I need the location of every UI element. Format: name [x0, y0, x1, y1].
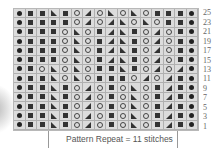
knit-square-icon — [97, 39, 102, 44]
decrease-right-triangle-icon — [51, 94, 57, 100]
purl-dot-icon — [189, 76, 194, 81]
chart-cell — [175, 111, 187, 120]
yarn-over-circle-icon — [74, 85, 80, 91]
chart-cell — [83, 83, 95, 92]
row-number: 25 — [203, 8, 211, 17]
chart-cell — [72, 83, 84, 92]
chart-cell — [37, 46, 49, 55]
chart-cell — [14, 56, 26, 65]
yarn-over-circle-icon — [166, 57, 172, 63]
chart-cell — [95, 18, 107, 27]
decrease-right-triangle-icon — [120, 66, 126, 72]
yarn-over-circle-icon — [85, 47, 91, 53]
purl-dot-icon — [189, 66, 194, 71]
chart-cell — [37, 102, 49, 111]
chart-cell — [164, 56, 176, 65]
chart-cell — [118, 37, 130, 46]
chart-cell — [129, 83, 141, 92]
chart-cell — [49, 74, 61, 83]
chart-cell — [175, 46, 187, 55]
chart-cell — [60, 102, 72, 111]
chart-cell — [129, 46, 141, 55]
decrease-left-triangle-icon — [143, 75, 149, 81]
decrease-left-triangle-icon — [166, 103, 172, 109]
yarn-over-circle-icon — [97, 10, 103, 16]
chart-cell — [141, 18, 153, 27]
knit-square-icon — [166, 11, 171, 16]
chart-cell — [106, 74, 118, 83]
yarn-over-circle-icon — [120, 113, 126, 119]
decrease-right-triangle-icon — [74, 57, 80, 63]
chart-cell — [106, 102, 118, 111]
chart-cell — [152, 56, 164, 65]
chart-cell — [60, 83, 72, 92]
knit-square-icon — [178, 20, 183, 25]
chart-cell — [14, 83, 26, 92]
yarn-over-circle-icon — [62, 47, 68, 53]
chart-cell — [106, 65, 118, 74]
knit-square-icon — [63, 94, 68, 99]
decrease-right-triangle-icon — [51, 10, 57, 16]
decrease-left-triangle-icon — [154, 57, 160, 63]
chart-cell — [14, 18, 26, 27]
purl-dot-icon — [17, 39, 22, 44]
chart-cell — [118, 74, 130, 83]
decrease-right-triangle-icon — [131, 113, 137, 119]
purl-dot-icon — [17, 76, 22, 81]
yarn-over-circle-icon — [143, 66, 149, 72]
knit-square-icon — [97, 29, 102, 34]
chart-cell — [26, 74, 38, 83]
yarn-over-circle-icon — [85, 29, 91, 35]
purl-dot-icon — [17, 29, 22, 34]
knit-square-icon — [178, 48, 183, 53]
chart-cell — [49, 65, 61, 74]
chart-cell — [60, 28, 72, 37]
chart-cell — [95, 56, 107, 65]
chart-cell — [26, 18, 38, 27]
chart-cell — [164, 28, 176, 37]
yarn-over-circle-icon — [74, 113, 80, 119]
chart-cell — [37, 121, 49, 130]
chart-cell — [60, 18, 72, 27]
knit-square-icon — [63, 113, 68, 118]
knit-square-icon — [40, 76, 45, 81]
knit-square-icon — [178, 29, 183, 34]
repeat-bracket-left — [48, 131, 49, 148]
purl-dot-icon — [17, 11, 22, 16]
chart-cell — [106, 46, 118, 55]
knit-square-icon — [109, 122, 114, 127]
chart-cell — [187, 46, 199, 55]
purl-dot-icon — [17, 20, 22, 25]
decrease-right-triangle-icon — [74, 47, 80, 53]
chart-cell — [106, 83, 118, 92]
chart-cell — [26, 37, 38, 46]
yarn-over-circle-icon — [143, 122, 149, 128]
knit-square-icon — [51, 57, 56, 62]
chart-cell — [141, 111, 153, 120]
decrease-right-triangle-icon — [143, 19, 149, 25]
knit-square-icon — [40, 104, 45, 109]
chart-cell — [49, 28, 61, 37]
knit-square-icon — [51, 20, 56, 25]
decrease-right-triangle-icon — [51, 75, 57, 81]
yarn-over-circle-icon — [120, 85, 126, 91]
chart-cell — [152, 65, 164, 74]
row-number: 17 — [203, 46, 211, 55]
chart-cell — [152, 74, 164, 83]
purl-dot-icon — [17, 85, 22, 90]
chart-cell — [72, 18, 84, 27]
purl-dot-icon — [189, 29, 194, 34]
yarn-over-circle-icon — [62, 29, 68, 35]
chart-cell — [72, 93, 84, 102]
knit-square-icon — [63, 11, 68, 16]
decrease-left-triangle-icon — [166, 113, 172, 119]
decrease-right-triangle-icon — [120, 38, 126, 44]
chart-cell — [49, 102, 61, 111]
chart-cell — [72, 46, 84, 55]
knit-square-icon — [51, 29, 56, 34]
decrease-right-triangle-icon — [108, 10, 114, 16]
yarn-over-circle-icon — [143, 10, 149, 16]
chart-cell — [141, 37, 153, 46]
chart-cell — [106, 9, 118, 18]
chart-cell — [175, 65, 187, 74]
